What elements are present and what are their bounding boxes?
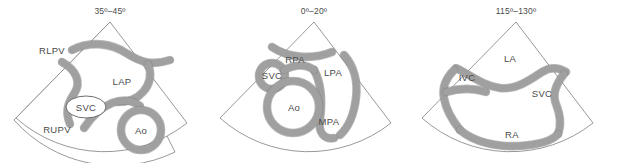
panel-title: 0º–20º (301, 6, 327, 16)
label-mpa: MPA (319, 116, 340, 127)
label-lpa: LPA (324, 67, 343, 78)
label-la: LA (504, 53, 517, 64)
tee-panel-35-45: 35º–45º RLPV LAP SVC RUPV Ao (0, 0, 209, 163)
label-rlpv: RLPV (39, 45, 65, 56)
label-svc: SVC (76, 102, 96, 113)
label-rpa: RPA (285, 54, 305, 65)
tee-sector-figure: 35º–45º RLPV LAP SVC RUPV Ao (0, 0, 626, 163)
label-ivc: IVC (459, 72, 476, 83)
panel-title: 115º–130º (496, 6, 536, 16)
label-lap: LAP (113, 76, 132, 87)
label-svc: SVC (532, 88, 552, 99)
ivc-stub (446, 89, 486, 92)
label-rupv: RUPV (43, 124, 71, 135)
tee-panel-115-130: 115º–130º LA IVC SVC RA (416, 0, 625, 163)
tee-panel-0-20: 0º–20º RPA LPA SVC Ao MPA (208, 0, 417, 163)
label-ao: Ao (288, 102, 300, 113)
panel-title: 35º–45º (94, 6, 125, 16)
label-ao: Ao (135, 125, 147, 136)
label-ra: RA (505, 129, 519, 140)
label-svc: SVC (262, 70, 282, 81)
